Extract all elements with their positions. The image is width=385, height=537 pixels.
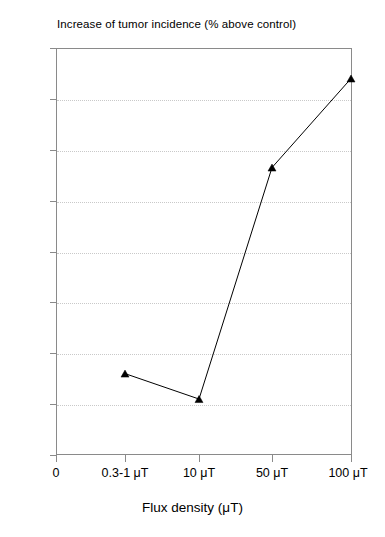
y-tick-mark xyxy=(50,48,56,49)
x-tick-mark xyxy=(199,455,200,462)
x-tick-label-100: 100 μT xyxy=(303,466,385,481)
gridline xyxy=(57,151,351,152)
chart-title: Increase of tumor incidence (% above con… xyxy=(57,17,296,31)
plot-area xyxy=(56,48,352,455)
x-tick-mark xyxy=(125,455,126,462)
y-tick-mark xyxy=(50,353,56,354)
y-tick-mark xyxy=(50,99,56,100)
figure: Increase of tumor incidence (% above con… xyxy=(0,0,385,537)
y-tick-mark xyxy=(50,201,56,202)
gridline xyxy=(57,202,351,203)
x-tick-mark xyxy=(351,455,352,462)
y-tick-mark xyxy=(50,150,56,151)
y-tick-mark xyxy=(50,302,56,303)
gridline xyxy=(57,405,351,406)
x-tick-mark xyxy=(272,455,273,462)
gridline xyxy=(57,303,351,304)
x-tick-mark xyxy=(56,455,57,462)
y-tick-mark xyxy=(50,404,56,405)
gridline xyxy=(57,100,351,101)
gridline xyxy=(57,354,351,355)
gridline xyxy=(57,253,351,254)
x-axis-title: Flux density (μT) xyxy=(0,499,385,516)
y-tick-mark xyxy=(50,252,56,253)
